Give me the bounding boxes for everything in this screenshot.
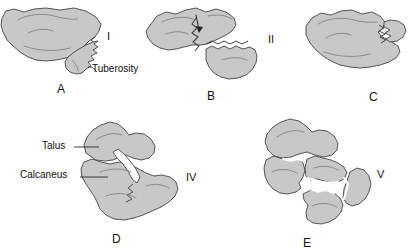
bone-calcaneus-body-b (146, 8, 236, 50)
panel-letter-a: A (57, 83, 65, 95)
annotation-calcaneus: Calcaneus (20, 170, 67, 180)
roman-numeral-v: V (377, 169, 384, 180)
annotation-talus: Talus (42, 141, 65, 151)
panel-letter-e: E (303, 237, 311, 249)
calcaneal-fracture-figure (0, 0, 419, 251)
panel-letter-b: B (207, 90, 215, 102)
bone-fragment-c (384, 20, 406, 42)
roman-numeral-i: I (107, 31, 110, 42)
roman-numeral-iv: IV (186, 172, 196, 183)
bone-talus-e (265, 119, 338, 158)
panel-a-illustration (1, 8, 101, 74)
bone-posterior-fragment-b (206, 46, 257, 79)
annotation-tuberosity: Tuberosity (92, 64, 138, 74)
panel-letter-d: D (112, 233, 121, 245)
panel-b-illustration (146, 8, 257, 79)
panel-letter-c: C (369, 91, 378, 103)
panel-d-illustration (74, 122, 178, 220)
fracture-line-b-2 (206, 41, 248, 44)
roman-numeral-ii: II (268, 34, 274, 45)
panel-c-illustration (306, 10, 406, 68)
panel-e-illustration (264, 119, 371, 224)
bone-fragment-e-1 (264, 156, 305, 194)
